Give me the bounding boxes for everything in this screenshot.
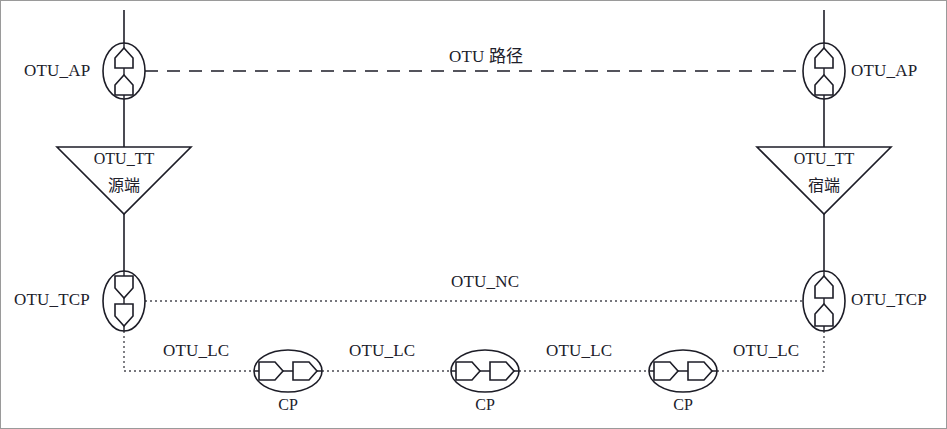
cp-1-symbol xyxy=(254,350,322,392)
otu-path-label: OTU 路径 xyxy=(449,42,523,67)
cp-3-label: CP xyxy=(653,396,713,414)
tcp-left-symbol xyxy=(103,271,145,331)
tcp-left-label: OTU_TCP xyxy=(14,290,90,310)
otu-nc-label: OTU_NC xyxy=(451,272,519,292)
ap-left-symbol xyxy=(103,43,145,99)
otu-lc-4-label: OTU_LC xyxy=(733,341,799,361)
cp-2-label: CP xyxy=(455,396,515,414)
otu-lc-1-label: OTU_LC xyxy=(163,341,229,361)
cp-2-symbol xyxy=(451,350,519,392)
otu-layer-diagram: OTU 路径 OTU_AP OTU_AP OTU_TT 源端 OTU_TT 宿端… xyxy=(0,0,947,429)
tt-right-label: OTU_TT xyxy=(774,150,874,168)
tcp-right-symbol xyxy=(803,271,845,331)
tt-right-sublabel: 宿端 xyxy=(774,172,874,196)
tcp-right-label: OTU_TCP xyxy=(851,290,927,310)
otu-lc-2-label: OTU_LC xyxy=(349,341,415,361)
ap-left-label: OTU_AP xyxy=(24,61,90,81)
ap-right-symbol xyxy=(803,43,845,99)
tt-left-label: OTU_TT xyxy=(74,150,174,168)
otu-lc-3-label: OTU_LC xyxy=(546,341,612,361)
ap-right-label: OTU_AP xyxy=(851,61,917,81)
tt-left-sublabel: 源端 xyxy=(74,172,174,196)
cp-3-symbol xyxy=(649,350,717,392)
cp-1-label: CP xyxy=(258,396,318,414)
